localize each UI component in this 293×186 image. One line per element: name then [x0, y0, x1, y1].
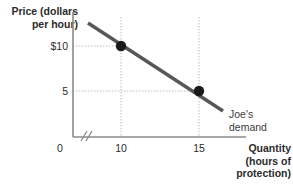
demand-curve-chart: Price (dollars per hour) Quantity (hours…	[0, 0, 293, 186]
data-point-marker	[116, 41, 126, 51]
data-point-marker	[194, 86, 204, 96]
axis-break-mark	[81, 131, 92, 141]
plot-area	[0, 0, 293, 186]
demand-curve-line	[88, 23, 223, 111]
